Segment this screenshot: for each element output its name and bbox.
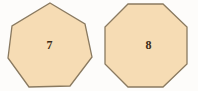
heptagon-figure: 7 [0, 0, 99, 91]
heptagon-label: 7 [0, 38, 99, 52]
octagon-figure: 8 [99, 0, 198, 91]
polygon-figure: 7 8 [0, 0, 198, 91]
octagon-label: 8 [99, 38, 198, 52]
